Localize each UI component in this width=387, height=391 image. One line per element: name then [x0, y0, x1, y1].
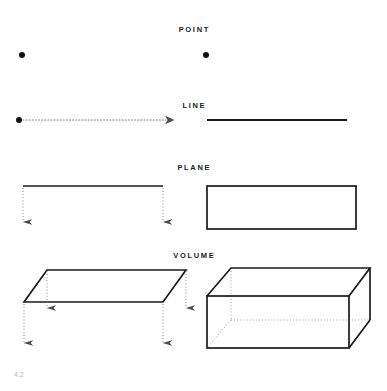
row-label-plane: PLANE	[0, 163, 387, 172]
plane-result-rectangle	[207, 186, 356, 229]
point-row-figures	[19, 52, 209, 58]
point-right-dot	[203, 52, 209, 58]
box-hidden-back-left-bottom-edge	[207, 320, 231, 348]
line-origin-dot	[16, 117, 22, 123]
row-label-point: POINT	[0, 25, 387, 34]
geometry-progression-diagram	[0, 0, 387, 391]
volume-row-figures	[24, 268, 370, 348]
line-row-figures	[16, 116, 347, 124]
point-left-dot	[19, 52, 25, 58]
page-folio-number: 4.2	[14, 371, 24, 378]
box-right-bottom-edge	[349, 320, 370, 348]
box-top-face	[207, 268, 370, 296]
diagram-page: POINT LINE PLANE VOLUME 4.2	[0, 0, 387, 391]
volume-source-parallelogram	[24, 270, 186, 302]
box-front-face	[207, 296, 349, 348]
row-label-line: LINE	[0, 101, 387, 110]
plane-row-figures	[23, 186, 356, 229]
row-label-volume: VOLUME	[0, 251, 387, 260]
